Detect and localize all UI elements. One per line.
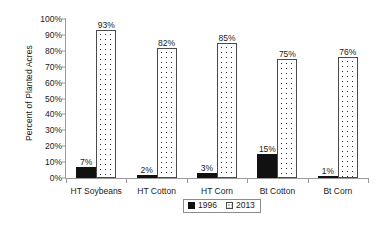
y-axis-tick	[62, 162, 66, 163]
y-axis-tick	[62, 82, 66, 83]
y-axis-tick-label: 50%	[45, 94, 62, 104]
bar-value-label: 82%	[158, 38, 175, 48]
y-axis-tick	[62, 66, 66, 67]
x-axis-label-ht-corn: HT Corn	[201, 186, 233, 196]
x-axis-tick	[187, 179, 188, 183]
y-axis-tick-label: 30%	[45, 125, 62, 135]
x-axis-tick	[368, 179, 369, 183]
y-axis-tick	[62, 98, 66, 99]
bar-2013-ht-cotton: 82%	[157, 48, 177, 178]
y-axis-tick-label: 40%	[45, 109, 62, 119]
bar-value-label: 1%	[322, 166, 334, 176]
bar-1996-ht-corn: 3%	[197, 173, 217, 178]
y-axis-tick	[62, 146, 66, 147]
y-axis-tick-label: 0%	[50, 173, 62, 183]
bar-2013-ht-soybeans: 93%	[96, 30, 116, 178]
bar-value-label: 3%	[201, 163, 213, 173]
bar-2013-bt-cotton: 75%	[277, 59, 297, 178]
bar-1996-bt-corn: 1%	[318, 176, 338, 178]
bar-2013-bt-corn: 76%	[338, 57, 358, 178]
y-axis-tick	[62, 50, 66, 51]
bar-value-label: 7%	[80, 157, 92, 167]
y-axis-tick-label: 20%	[45, 141, 62, 151]
chart-legend: 1996 2013	[183, 199, 261, 213]
legend-swatch-2013-icon	[226, 202, 233, 209]
x-axis-label-bt-cotton: Bt Cotton	[260, 186, 295, 196]
bar-value-label: 76%	[339, 47, 356, 57]
bar-2013-ht-corn: 85%	[217, 43, 237, 178]
x-axis-tick	[308, 179, 309, 183]
bar-value-label: 85%	[218, 33, 235, 43]
y-axis-tick-label: 60%	[45, 78, 62, 88]
bar-value-label: 75%	[279, 49, 296, 59]
legend-label-2013: 2013	[236, 201, 255, 210]
legend-item-1996: 1996	[188, 201, 217, 210]
x-axis-tick	[247, 179, 248, 183]
y-axis-tick-label: 10%	[45, 157, 62, 167]
y-axis-tick-label: 100%	[40, 14, 62, 24]
legend-item-2013: 2013	[226, 201, 255, 210]
y-axis-tick-label: 70%	[45, 62, 62, 72]
legend-swatch-1996-icon	[188, 202, 195, 209]
y-axis-tick-label: 90%	[45, 30, 62, 40]
bar-1996-ht-cotton: 2%	[137, 175, 157, 178]
y-axis-tick	[62, 130, 66, 131]
bar-value-label: 15%	[259, 144, 276, 154]
x-axis-tick	[66, 179, 67, 183]
x-axis-label-bt-corn: Bt Corn	[323, 186, 352, 196]
x-axis-line	[65, 178, 369, 179]
y-axis-tick	[62, 114, 66, 115]
bar-1996-bt-cotton: 15%	[257, 154, 277, 178]
x-axis-label-ht-cotton: HT Cotton	[137, 186, 176, 196]
y-axis-tick	[62, 19, 66, 20]
y-axis-title: Percent of Planted Acres	[24, 13, 34, 173]
bar-value-label: 93%	[98, 20, 115, 30]
y-axis-tick	[62, 34, 66, 35]
bar-chart: Percent of Planted Acres 0%10%20%30%40%5…	[0, 0, 382, 226]
bar-value-label: 2%	[140, 165, 152, 175]
legend-label-1996: 1996	[198, 201, 217, 210]
y-axis-tick-label: 80%	[45, 46, 62, 56]
plot-area: 0%10%20%30%40%50%60%70%80%90%100%7%93%2%…	[66, 19, 368, 178]
x-axis-tick	[126, 179, 127, 183]
x-axis-label-ht-soybeans: HT Soybeans	[71, 186, 122, 196]
bar-1996-ht-soybeans: 7%	[76, 167, 96, 178]
